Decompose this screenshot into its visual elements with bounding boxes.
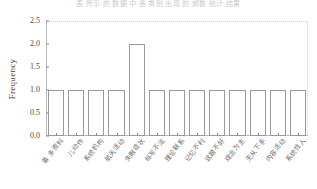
y-axis-tick-label: 1.5 <box>30 63 46 71</box>
x-axis-tick-label: 航天活动 <box>103 137 126 163</box>
x-axis-tick-label: 备 多资料 <box>42 137 66 165</box>
y-axis-tick-label: 2.5 <box>30 17 46 25</box>
bar[interactable] <box>129 44 145 136</box>
bar[interactable] <box>169 90 185 136</box>
y-axis-tick-label: 1.0 <box>30 86 46 94</box>
y-axis-tick-label: 0.0 <box>30 132 46 140</box>
x-axis-tick-mark <box>197 133 198 136</box>
x-axis-tick-label: 理论联系 <box>164 137 187 163</box>
x-axis-tick-mark <box>278 133 279 136</box>
y-axis-tick-label: 0.5 <box>30 109 46 117</box>
x-axis-tick-mark <box>56 133 57 136</box>
x-axis-tick-mark <box>137 133 138 136</box>
x-axis-tick-label: 观念为主 <box>224 137 247 163</box>
bar[interactable] <box>189 90 205 136</box>
bar[interactable] <box>88 90 104 136</box>
frequency-bar-chart-figure: 表 所示 的 数据 中 各 类别 出现 的 频数 统计 结果 Frequency… <box>0 0 317 189</box>
bar[interactable] <box>229 90 245 136</box>
x-axis-tick-mark <box>298 133 299 136</box>
x-axis-tick-mark <box>177 133 178 136</box>
x-axis-tick-mark <box>117 133 118 136</box>
x-axis-tick-label: 内容活动 <box>265 137 288 163</box>
x-axis-tick-label: 儿动作 <box>67 137 85 158</box>
x-axis-tick-mark <box>76 133 77 136</box>
x-axis-tick-mark <box>237 133 238 136</box>
y-axis-title: Frequency <box>6 21 18 136</box>
x-axis-labels: 备 多资料儿动作系统机构航天活动失眠症状标写不法理论联系记忆不利这题不好观念为主… <box>46 137 308 189</box>
x-axis-tick-mark <box>258 133 259 136</box>
x-axis-tick-label: 失眠症状 <box>123 137 146 163</box>
bar[interactable] <box>270 90 286 136</box>
x-axis-tick-mark <box>157 133 158 136</box>
y-axis-title-text: Frequency <box>7 58 17 99</box>
x-axis-tick-label: 系统机构 <box>83 137 106 163</box>
x-axis-tick-mark <box>96 133 97 136</box>
x-axis-tick-label: 标写不法 <box>144 137 167 163</box>
y-axis-tick-label: 2.0 <box>30 40 46 48</box>
bar-series <box>46 21 308 136</box>
bar[interactable] <box>290 90 306 136</box>
figure-caption: 表 所示 的 数据 中 各 类别 出现 的 频数 统计 结果 <box>0 0 317 7</box>
plot-area: 0.00.51.01.52.02.5 <box>46 21 308 136</box>
bar[interactable] <box>149 90 165 136</box>
bar[interactable] <box>108 90 124 136</box>
bar[interactable] <box>250 90 266 136</box>
bar[interactable] <box>48 90 64 136</box>
bar[interactable] <box>209 90 225 136</box>
x-axis-tick-label: 无从下手 <box>244 137 267 163</box>
x-axis-tick-label: 系统性人 <box>285 137 308 163</box>
bar[interactable] <box>68 90 84 136</box>
x-axis-tick-mark <box>217 133 218 136</box>
